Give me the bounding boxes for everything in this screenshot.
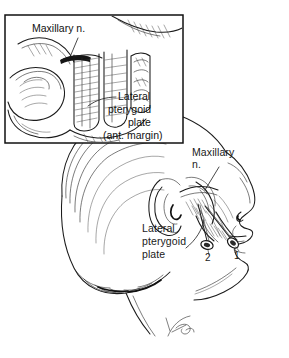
anatomical-illustration: Maxillary n. Lateral pterygoid plate 2 1 [0, 0, 289, 358]
label-lateral-main: Lateral [142, 222, 175, 234]
inset-label-maxillary-nerve: Maxillary n. [32, 22, 85, 34]
label-maxillary-line1: Maxillary [192, 146, 235, 158]
inset-panel: Maxillary n. Lateral pterygoid plate (an… [5, 15, 184, 145]
illustration-root: Maxillary n. Lateral pterygoid plate 2 1 [0, 0, 289, 358]
inset-label-ant-margin: (ant. margin) [103, 129, 163, 141]
inset-label-plate: plate [128, 116, 151, 128]
needle-number-2: 2 [205, 252, 211, 263]
label-pterygoid-main: pterygoid [142, 235, 186, 247]
inset-label-lateral: Lateral [118, 90, 150, 102]
inset-label-pterygoid: pterygoid [108, 103, 151, 115]
needle-number-1: 1 [234, 250, 240, 261]
label-plate-main: plate [142, 248, 165, 260]
label-maxillary-line2: n. [192, 158, 201, 170]
